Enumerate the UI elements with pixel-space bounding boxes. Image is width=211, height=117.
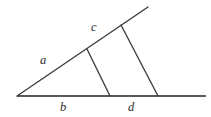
label-c: c	[91, 21, 97, 34]
transversal-segment-2	[121, 25, 158, 96]
label-d: d	[128, 101, 134, 114]
geometry-figure: a b c d	[0, 0, 211, 117]
label-b: b	[60, 101, 66, 114]
upper-ray-segment	[17, 7, 148, 96]
transversal-segment-1	[87, 49, 110, 96]
figure-canvas	[0, 0, 211, 117]
label-a: a	[40, 54, 46, 67]
